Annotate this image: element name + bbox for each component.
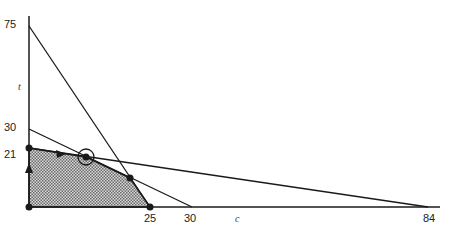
y-tick-30: 30 bbox=[4, 121, 16, 133]
vertex-t21 bbox=[26, 145, 33, 152]
x-tick-25: 25 bbox=[144, 212, 156, 224]
y-tick-75: 75 bbox=[4, 18, 16, 30]
x-tick-84: 84 bbox=[423, 212, 435, 224]
vertex-origin bbox=[26, 204, 33, 211]
lp-diagram: 75 30 21 t 25 30 84 c bbox=[0, 0, 456, 235]
y-axis-label: t bbox=[18, 81, 21, 92]
x-axis-label: c bbox=[235, 213, 240, 224]
vertex-optimum bbox=[83, 154, 90, 161]
x-tick-30: 30 bbox=[184, 212, 196, 224]
vertex-intersection bbox=[127, 175, 134, 182]
y-tick-21: 21 bbox=[4, 148, 16, 160]
vertex-c25 bbox=[147, 204, 154, 211]
